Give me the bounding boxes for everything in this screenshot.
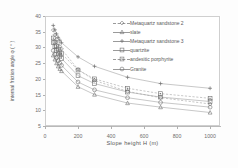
- legend-symbol-square-icon: [113, 46, 130, 55]
- data-point-triangle: [120, 30, 124, 34]
- data-point-plus: [51, 24, 55, 28]
- data-point-plus: [120, 39, 124, 43]
- data-point-square-dot: [120, 57, 124, 61]
- legend-label: slate: [130, 29, 141, 35]
- legend-item-3[interactable]: quartzite: [113, 46, 233, 55]
- legend-symbol-square-dot-icon: [113, 55, 130, 64]
- legend-symbol-diamond-icon: [113, 18, 130, 27]
- y-axis-title: internal friction angle φ ( ° ): [6, 16, 18, 126]
- legend-item-0[interactable]: Metaquartz sandstone 2: [113, 18, 233, 27]
- x-axis-title: Slope height H (m): [45, 140, 220, 146]
- data-point-plus: [159, 82, 163, 86]
- legend: Metaquartz sandstone 2slateMetaquartz sa…: [113, 18, 233, 73]
- legend-symbol-plus-icon: [113, 36, 130, 45]
- legend-label: andesitic porphyrite: [130, 56, 173, 62]
- legend-label: quartzite: [130, 47, 149, 53]
- data-point-diamond: [120, 21, 124, 25]
- data-point-plus: [93, 64, 97, 68]
- data-point-square: [120, 48, 124, 52]
- legend-item-5[interactable]: Granite: [113, 64, 233, 73]
- legend-label: Metaquartz sandstone 2: [130, 20, 184, 26]
- legend-label: Metaquartz sandstone 3: [130, 38, 184, 44]
- chart-figure: 510152025303540 02004006008001000 intern…: [0, 0, 238, 168]
- data-point-circle: [120, 67, 124, 71]
- data-point-plus: [208, 86, 212, 90]
- legend-item-4[interactable]: andesitic porphyrite: [113, 55, 233, 64]
- data-point-plus: [126, 75, 130, 79]
- legend-label: Granite: [130, 66, 146, 72]
- legend-item-2[interactable]: Metaquartz sandstone 3: [113, 36, 233, 45]
- legend-item-1[interactable]: slate: [113, 27, 233, 36]
- legend-symbol-triangle-icon: [113, 27, 130, 36]
- legend-symbol-circle-icon: [113, 64, 130, 73]
